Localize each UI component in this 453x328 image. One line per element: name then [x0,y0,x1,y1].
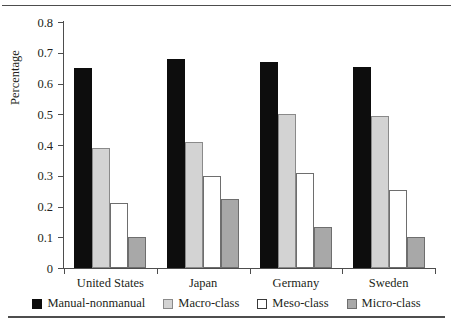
bar [110,203,128,268]
y-tick-label: 0 [47,262,53,275]
category-label: United States [77,276,144,291]
legend-label: Macro-class [178,296,239,311]
bar [92,148,110,268]
x-tick [157,269,158,274]
bar [296,173,314,268]
legend-label: Meso-class [272,296,328,311]
legend-swatch-icon [32,299,42,309]
legend-item: Macro-class [163,296,239,311]
y-tick-label: 0.7 [37,47,53,60]
figure: Percentage 00.10.20.30.40.50.60.70.8 Uni… [0,0,453,328]
top-rule [2,5,451,6]
x-tick [250,269,251,274]
bar [389,190,407,268]
bar [314,227,332,269]
y-tick-label: 0.2 [37,201,53,214]
legend-swatch-icon [163,299,173,309]
category-label: Sweden [369,276,409,291]
bar [128,237,146,268]
legend-swatch-icon [257,299,267,309]
legend-label: Manual-nonmanual [47,296,145,311]
bar [167,59,185,268]
x-tick [342,269,343,274]
y-tick-label: 0.8 [37,16,53,29]
y-axis-label: Percentage [8,50,23,105]
x-tick [435,269,436,274]
bar [371,116,389,268]
legend-swatch-icon [347,299,357,309]
y-tick-label: 0.3 [37,170,53,183]
legend-label: Micro-class [362,296,421,311]
y-tick-label: 0.4 [37,139,53,152]
category-label: Japan [189,276,217,291]
legend-item: Micro-class [347,296,421,311]
bar [407,237,425,268]
bar [185,142,203,268]
legend-item: Manual-nonmanual [32,296,145,311]
bar [74,68,92,268]
chart-legend: Manual-nonmanualMacro-classMeso-classMic… [0,296,453,311]
bar [353,67,371,268]
y-tick-label: 0.5 [37,109,53,122]
bar [260,62,278,268]
y-tick-label: 0.1 [37,232,53,245]
bar [221,199,239,268]
plot-area [64,22,435,268]
x-tick [64,269,65,274]
bar [278,114,296,268]
bottom-rule [8,316,445,318]
bar [203,176,221,268]
legend-item: Meso-class [257,296,328,311]
y-tick-label: 0.6 [37,78,53,91]
category-label: Germany [273,276,320,291]
